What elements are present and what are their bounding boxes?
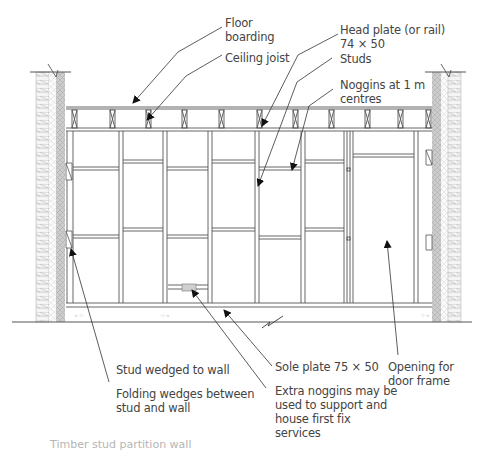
label-floor-boarding: Floor boarding xyxy=(225,16,274,44)
service-box xyxy=(168,284,208,291)
stud xyxy=(255,131,259,303)
leader-door-opening xyxy=(387,241,398,355)
stud xyxy=(67,131,73,303)
stud xyxy=(350,131,353,303)
noggin xyxy=(73,235,119,238)
joist-block xyxy=(365,110,370,128)
noggin xyxy=(123,228,163,231)
noggin xyxy=(212,160,255,163)
joist-block xyxy=(293,110,298,128)
noggin xyxy=(353,154,414,157)
noggin xyxy=(167,235,208,238)
figure-caption: Timber stud partition wall xyxy=(50,438,191,451)
joist-block xyxy=(72,110,77,128)
joist-block xyxy=(219,110,224,128)
floor-slab: ∘⁘ ⁘∘ ⁘∘ xyxy=(12,307,472,328)
noggin xyxy=(305,160,344,163)
label-noggins: Noggins at 1 m centres xyxy=(340,78,425,106)
noggin xyxy=(305,228,344,231)
stud xyxy=(414,131,418,303)
joist-block xyxy=(146,110,151,128)
left-masonry-wall xyxy=(30,64,71,322)
label-ceiling-joist: Ceiling joist xyxy=(225,51,289,65)
stud xyxy=(301,131,305,303)
noggin xyxy=(167,167,208,170)
joist-block xyxy=(426,110,431,128)
noggin xyxy=(212,228,255,231)
right-masonry-wall xyxy=(425,64,466,322)
stud xyxy=(119,131,123,303)
label-studs: Studs xyxy=(340,52,371,66)
noggin xyxy=(259,236,301,239)
label-door-opening: Opening for door frame xyxy=(388,360,454,388)
leader-sole-plate xyxy=(224,310,272,366)
svg-text:⁘∘: ⁘∘ xyxy=(420,312,430,320)
ceiling-joists xyxy=(66,107,432,131)
noggin xyxy=(123,160,163,163)
stud xyxy=(163,131,167,303)
stud-frame xyxy=(66,131,432,303)
joist-block xyxy=(257,110,262,128)
stud xyxy=(344,131,347,303)
noggin xyxy=(73,167,119,170)
label-extra-noggins: Extra noggins may be used to support and… xyxy=(275,384,397,440)
leader-floor-boarding xyxy=(133,27,222,103)
label-folding-wedges: Folding wedges between stud and wall xyxy=(116,387,254,415)
joist-block xyxy=(398,110,403,128)
label-head-plate: Head plate (or rail) 74 × 50 xyxy=(340,23,445,51)
folding-wedges xyxy=(66,150,432,250)
leader-noggins xyxy=(292,89,333,170)
stud xyxy=(208,131,212,303)
label-sole-plate: Sole plate 75 × 50 xyxy=(275,360,379,374)
joist-block xyxy=(329,110,334,128)
joist-block xyxy=(182,110,187,128)
label-stud-wedged: Stud wedged to wall xyxy=(116,363,229,377)
svg-text:∘⁘: ∘⁘ xyxy=(74,312,84,320)
joist-block xyxy=(110,110,115,128)
svg-text:⁘∘: ⁘∘ xyxy=(160,312,170,320)
